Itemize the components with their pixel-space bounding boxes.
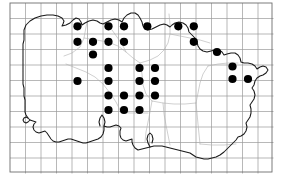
record-dot bbox=[104, 22, 112, 30]
distribution-map-figure bbox=[0, 0, 283, 183]
record-dot bbox=[135, 77, 143, 85]
record-dot bbox=[228, 75, 236, 83]
record-dot bbox=[73, 77, 81, 85]
record-dot bbox=[120, 38, 128, 46]
record-dot bbox=[135, 64, 143, 72]
record-dot bbox=[104, 77, 112, 85]
record-dot bbox=[213, 48, 221, 56]
record-dot bbox=[73, 38, 81, 46]
record-dot bbox=[143, 22, 151, 30]
record-dot bbox=[104, 91, 112, 99]
record-dot bbox=[244, 75, 252, 83]
record-dot bbox=[104, 38, 112, 46]
record-dot bbox=[190, 22, 198, 30]
record-dot bbox=[104, 64, 112, 72]
record-dot bbox=[151, 77, 159, 85]
record-dot bbox=[135, 91, 143, 99]
record-dot bbox=[174, 22, 182, 30]
figure-background bbox=[0, 0, 283, 183]
record-dot bbox=[120, 22, 128, 30]
record-dot bbox=[151, 64, 159, 72]
record-dot bbox=[89, 38, 97, 46]
record-dot bbox=[135, 106, 143, 114]
record-dot bbox=[151, 91, 159, 99]
map-canvas bbox=[0, 0, 283, 183]
record-dot bbox=[190, 38, 198, 46]
record-dot bbox=[120, 106, 128, 114]
record-dot bbox=[104, 106, 112, 114]
record-dot bbox=[89, 50, 97, 58]
record-dot bbox=[228, 62, 236, 70]
record-dot bbox=[73, 22, 81, 30]
record-dot bbox=[120, 91, 128, 99]
